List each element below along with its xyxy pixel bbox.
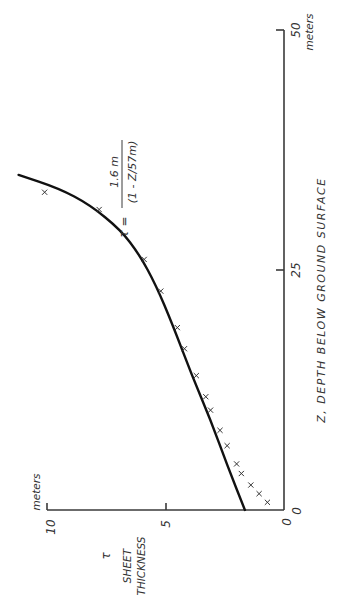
data-point-x-marker (42, 190, 47, 195)
axes (47, 30, 284, 510)
tau-tick-label-5: 5 (159, 520, 173, 528)
data-point-x-marker (203, 394, 208, 399)
data-point-x-marker (248, 482, 253, 487)
z-tick-label-50: 50 (289, 22, 303, 38)
data-point-x-marker (234, 461, 239, 466)
tau-title-line2: THICKNESS (135, 536, 147, 595)
fitted-curve (19, 175, 245, 510)
tau-tick-label-10: 10 (44, 519, 58, 535)
tau-symbol: τ (99, 552, 113, 560)
data-point-x-marker (194, 373, 199, 378)
z-tick-label-25: 25 (289, 262, 303, 277)
data-point-x-marker (225, 443, 230, 448)
data-point-x-marker (257, 491, 262, 496)
data-point-x-marker (217, 428, 222, 433)
sheet-thickness-chart: 10 meters 5 0 0 25 50 meters Z, DEPTH BE… (0, 0, 339, 602)
z-axis-title: Z, DEPTH BELOW GROUND SURFACE (315, 177, 328, 423)
z-unit-label: meters (303, 13, 315, 51)
formula-lhs: τ = (117, 216, 131, 237)
tau-title-line1: SHEET (121, 547, 133, 583)
plot-area (19, 175, 270, 510)
data-point-x-marker (265, 500, 270, 505)
formula-denominator: (1 - Z/57m) (126, 141, 139, 204)
data-point-x-marker (239, 471, 244, 476)
tau-tick-label-0: 0 (280, 518, 294, 526)
tau-unit-label: meters (30, 473, 42, 511)
data-point-x-marker (175, 325, 180, 330)
z-tick-label-0: 0 (290, 507, 304, 515)
formula-numerator: 1.6 m (108, 156, 121, 188)
data-point-x-marker (208, 408, 213, 413)
